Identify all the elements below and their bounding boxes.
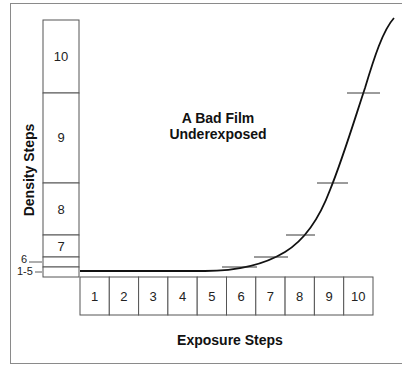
exposure-label-7: 7	[267, 289, 274, 304]
exposure-label-3: 3	[150, 289, 157, 304]
exposure-label-5: 5	[208, 289, 215, 304]
density-label-6: 6	[21, 253, 27, 265]
diagram-title-line2: Underexposed	[169, 126, 266, 142]
density-small-labels: 6 1-5	[17, 253, 42, 277]
density-label-7: 7	[57, 239, 64, 254]
density-label-1-5: 1-5	[17, 265, 33, 277]
density-cell-1-5	[43, 267, 79, 277]
exposure-label-2: 2	[120, 289, 127, 304]
exposure-label-8: 8	[296, 289, 303, 304]
exposure-label-1: 1	[91, 289, 98, 304]
y-axis-label: Density Steps	[21, 123, 37, 216]
density-label-8: 8	[57, 202, 64, 217]
exposure-label-10: 10	[351, 289, 365, 304]
density-label-9: 9	[57, 130, 64, 145]
exposure-label-4: 4	[179, 289, 186, 304]
exposure-label-6: 6	[237, 289, 244, 304]
density-label-10: 10	[54, 49, 68, 64]
x-axis-label: Exposure Steps	[177, 332, 283, 348]
density-cell-6	[43, 257, 79, 267]
characteristic-curve	[80, 18, 394, 271]
characteristic-curve-diagram: 10 9 8 7 6 1-5 Density Steps 1 2 3 4 5 6…	[0, 0, 404, 374]
exposure-label-9: 9	[325, 289, 332, 304]
diagram-title-line1: A Bad Film	[182, 110, 255, 126]
